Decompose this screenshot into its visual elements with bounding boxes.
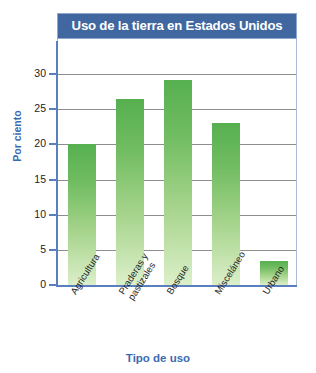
y-tick-10 (49, 214, 57, 216)
chart-title: Uso de la tierra en Estados Unidos (72, 19, 283, 32)
plot-area (57, 39, 297, 286)
y-tick-5 (49, 249, 57, 251)
y-tick-label-25: 25 (24, 103, 46, 114)
y-tick-label-15: 15 (24, 174, 46, 185)
y-tick-label-20: 20 (24, 138, 46, 149)
y-tick-label-wrap-30: 30 (22, 68, 46, 79)
plot-inner (58, 39, 296, 285)
y-tick-label-wrap-25: 25 (22, 103, 46, 114)
gridline-30 (58, 74, 296, 75)
y-tick-label-0: 0 (24, 279, 46, 290)
y-tick-label-30: 30 (24, 68, 46, 79)
y-tick-label-wrap-15: 15 (22, 174, 46, 185)
y-tick-label-5: 5 (24, 244, 46, 255)
x-axis-title: Tipo de uso (0, 352, 316, 364)
y-tick-label-wrap-10: 10 (22, 209, 46, 220)
y-tick-label-wrap-20: 20 (22, 138, 46, 149)
y-tick-label-wrap-0: 0 (22, 279, 46, 290)
y-tick-20 (49, 143, 57, 145)
y-tick-label-10: 10 (24, 209, 46, 220)
y-tick-15 (49, 179, 57, 181)
y-tick-30 (49, 73, 57, 75)
chart-title-banner: Uso de la tierra en Estados Unidos (57, 13, 297, 39)
y-tick-25 (49, 108, 57, 110)
y-tick-0 (49, 284, 57, 286)
chart-figure: Uso de la tierra en Estados Unidos Por c… (0, 0, 316, 373)
y-tick-label-wrap-5: 5 (22, 244, 46, 255)
bar-2 (164, 80, 192, 285)
